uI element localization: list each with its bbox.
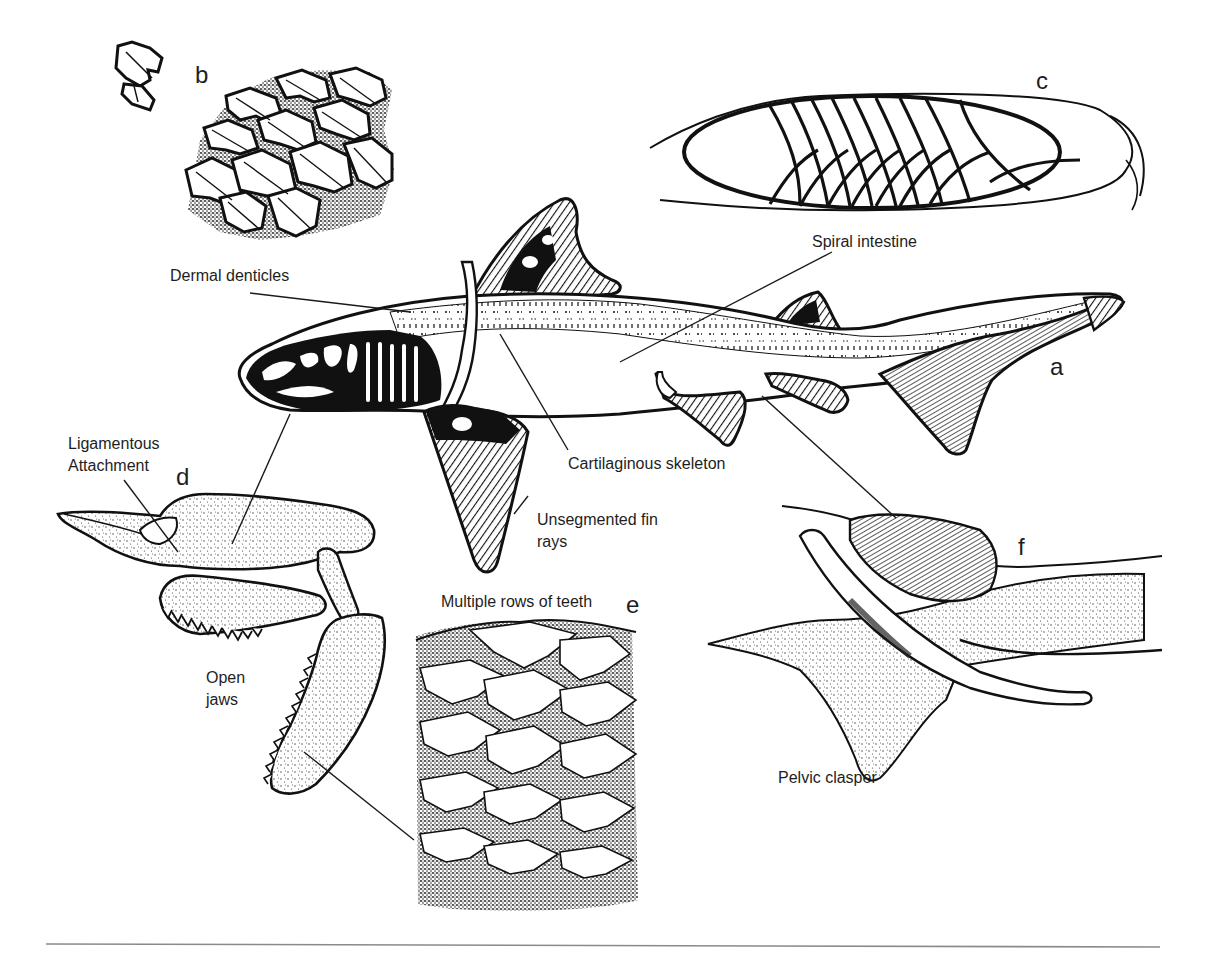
label-dermal-denticles: Dermal denticles — [170, 266, 289, 286]
denticle-cluster — [186, 68, 394, 240]
panel-f-clasper — [708, 506, 1162, 781]
leader-clasper — [762, 396, 896, 518]
panel-letter-c: c — [1036, 68, 1048, 94]
panel-letter-d: d — [176, 464, 189, 490]
single-denticle — [116, 42, 162, 110]
bottom-rule — [46, 944, 1160, 947]
panel-letter-f: f — [1018, 534, 1025, 560]
shark-anatomy-figure: b c a d e f Dermal denticles Spiral inte… — [0, 0, 1206, 960]
label-pelvic-clasper: Pelvic clasper — [778, 768, 877, 788]
panel-d-jaws — [58, 494, 385, 794]
panel-e-teeth-rows — [416, 620, 638, 911]
label-spiral-intestine: Spiral intestine — [812, 232, 917, 252]
panel-letter-a: a — [1050, 354, 1063, 380]
panel-b-denticles — [116, 42, 394, 240]
label-ligamentous-line1: Ligamentous — [68, 434, 160, 454]
leader-teeth-rows — [304, 752, 414, 840]
panel-a-shark — [239, 199, 1124, 572]
label-multiple-rows-of-teeth: Multiple rows of teeth — [441, 592, 592, 612]
panel-letter-b: b — [195, 62, 208, 88]
label-open-jaws-line2: jaws — [206, 690, 238, 710]
label-unsegmented-fin-rays-line2: rays — [537, 532, 567, 552]
label-cartilaginous-skeleton: Cartilaginous skeleton — [568, 454, 725, 474]
label-unsegmented-fin-rays-line1: Unsegmented fin — [537, 510, 658, 530]
panel-letter-e: e — [626, 592, 639, 618]
label-open-jaws-line1: Open — [206, 668, 245, 688]
leader-fin-rays — [514, 496, 528, 514]
leader-dermal-denticles — [250, 293, 410, 312]
label-ligamentous-line2: Attachment — [68, 456, 149, 476]
panel-c-spiral-intestine — [650, 94, 1144, 210]
